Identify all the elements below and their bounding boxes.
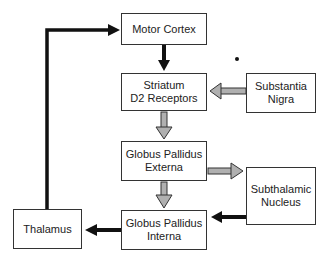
arrow-stn-to-gpi [211,211,246,223]
arrow-striatum-to-gpe [156,112,172,139]
arrow-thalamus-to-motor-cortex [47,24,120,209]
arrow-substantia-nigra-to-striatum [210,83,246,99]
arrow-gpi-to-thalamus [85,224,121,236]
arrow-gpe-to-gpi [156,182,172,208]
node-motor-cortex: Motor Cortex [121,13,207,45]
node-subthalamic-nucleus: Subthalamic Nucleus [246,167,316,225]
node-globus-pallidus-externa: Globus Pallidus Externa [121,141,207,181]
node-striatum: Striatum D2 Receptors [121,73,207,111]
node-globus-pallidus-interna: Globus Pallidus Interna [121,210,207,250]
arrow-motor-cortex-to-striatum [158,45,170,71]
arrow-gpe-to-stn [208,163,243,179]
stray-dot [235,57,239,61]
node-thalamus: Thalamus [13,209,82,249]
node-substantia-nigra: Substantia Nigra [246,73,316,113]
